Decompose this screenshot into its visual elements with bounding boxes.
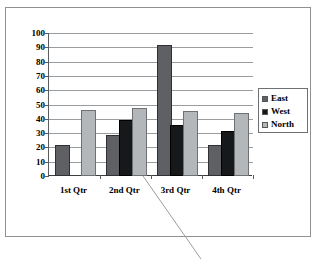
legend-label: East xyxy=(271,94,288,103)
y-axis-tick-label: 100 xyxy=(19,29,45,38)
y-axis-tick-label: 40 xyxy=(19,115,45,124)
legend-swatch-east xyxy=(262,96,268,102)
x-axis-tick-label: 1st Qtr xyxy=(48,185,99,195)
y-axis-tick-label: 0 xyxy=(19,172,45,181)
y-axis-tick-mark xyxy=(45,33,49,34)
bar-north-4 xyxy=(234,113,249,176)
diagonal-leader-line xyxy=(125,170,215,259)
bars-layer xyxy=(49,33,253,176)
y-axis-tick-label: 80 xyxy=(19,58,45,67)
x-axis-tick-mark xyxy=(100,175,101,179)
bar-east-1 xyxy=(55,145,70,176)
legend-item-east: East xyxy=(262,92,307,105)
x-axis-tick-label: 3rd Qtr xyxy=(150,185,201,195)
plot-area xyxy=(48,33,252,176)
y-axis-tick-mark xyxy=(45,133,49,134)
chart-legend: EastWestNorth xyxy=(258,88,308,133)
bar-north-3 xyxy=(183,111,198,176)
bar-chart: 0102030405060708090100 1st Qtr2nd Qtr3rd… xyxy=(0,0,325,259)
y-axis-tick-mark xyxy=(45,105,49,106)
x-axis-tick-mark xyxy=(151,175,152,179)
y-axis-tick-label: 50 xyxy=(19,101,45,110)
y-axis-tick-mark xyxy=(45,176,49,177)
legend-item-west: West xyxy=(262,105,307,118)
y-axis-tick-mark xyxy=(45,90,49,91)
legend-item-north: North xyxy=(262,118,307,131)
y-axis-tick-mark xyxy=(45,119,49,120)
x-axis-tick-mark xyxy=(253,175,254,179)
y-axis-tick-label: 70 xyxy=(19,72,45,81)
y-axis-tick-mark xyxy=(45,76,49,77)
y-axis: 0102030405060708090100 xyxy=(14,33,45,176)
y-axis-tick-mark xyxy=(45,47,49,48)
y-axis-tick-label: 90 xyxy=(19,43,45,52)
x-axis-tick-mark xyxy=(202,175,203,179)
x-axis: 1st Qtr2nd Qtr3rd Qtr4th Qtr xyxy=(48,185,252,199)
y-axis-tick-label: 30 xyxy=(19,129,45,138)
legend-label: North xyxy=(271,120,294,129)
y-axis-tick-label: 60 xyxy=(19,86,45,95)
x-axis-tick-label: 2nd Qtr xyxy=(99,185,150,195)
y-axis-tick-mark xyxy=(45,147,49,148)
bar-north-2 xyxy=(132,108,147,176)
legend-swatch-north xyxy=(262,122,268,128)
legend-label: West xyxy=(271,107,290,116)
y-axis-tick-mark xyxy=(45,162,49,163)
legend-swatch-west xyxy=(262,109,268,115)
bar-north-1 xyxy=(81,110,96,176)
y-axis-tick-label: 20 xyxy=(19,143,45,152)
y-axis-tick-mark xyxy=(45,62,49,63)
y-axis-tick-label: 10 xyxy=(19,158,45,167)
x-axis-tick-label: 4th Qtr xyxy=(201,185,252,195)
